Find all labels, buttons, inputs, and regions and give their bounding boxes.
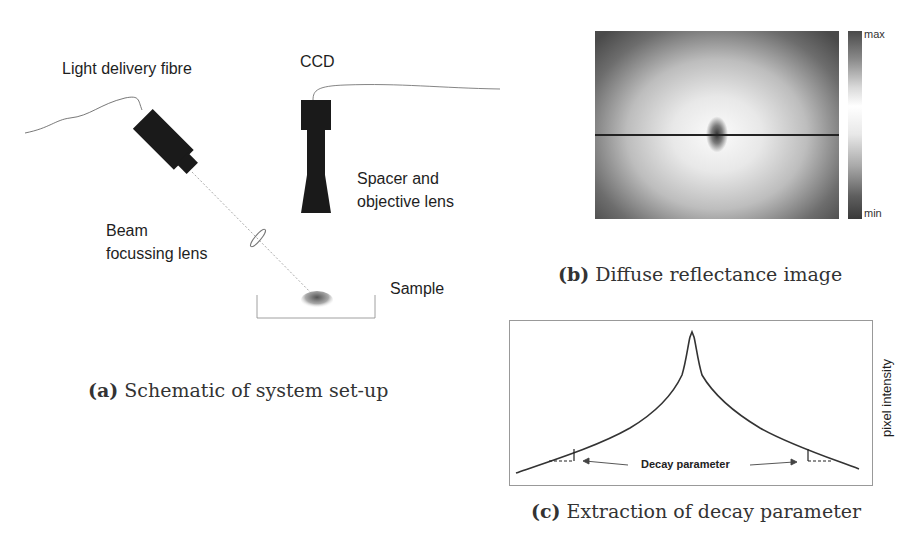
caption-c-text: Extraction of decay parameter [567,500,861,522]
intensity-profile-chart [0,0,923,560]
caption-c: (c) Extraction of decay parameter [531,500,861,522]
y-axis-label: pixel intensity [879,359,894,437]
decay-parameter-label: Decay parameter [641,458,730,470]
caption-c-tag: (c) [531,500,561,522]
